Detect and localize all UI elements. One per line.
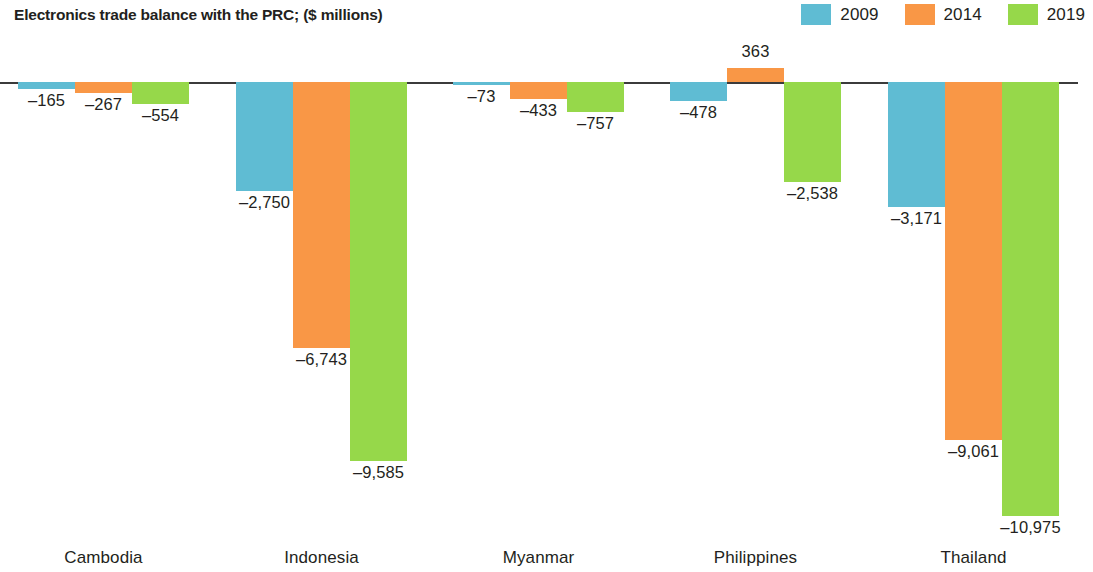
bar-indonesia-2009 bbox=[236, 82, 293, 191]
value-label-myanmar-2019: –757 bbox=[577, 114, 614, 133]
value-label-indonesia-2019: –9,585 bbox=[353, 463, 404, 482]
value-label-myanmar-2009: –73 bbox=[468, 87, 496, 106]
bar-cambodia-2019 bbox=[132, 82, 189, 104]
category-label-cambodia: Cambodia bbox=[64, 548, 142, 568]
bar-philippines-2014 bbox=[727, 68, 784, 82]
value-label-cambodia-2014: –267 bbox=[85, 95, 122, 114]
chart-container: Electronics trade balance with the PRC; … bbox=[0, 0, 1093, 572]
bar-thailand-2019 bbox=[1002, 82, 1059, 516]
bar-philippines-2019 bbox=[784, 82, 841, 182]
category-label-indonesia: Indonesia bbox=[284, 548, 359, 568]
bar-myanmar-2009 bbox=[453, 82, 510, 85]
bar-myanmar-2014 bbox=[510, 82, 567, 99]
bar-thailand-2014 bbox=[945, 82, 1002, 440]
bar-thailand-2009 bbox=[888, 82, 945, 207]
value-label-cambodia-2009: –165 bbox=[28, 91, 65, 110]
category-label-myanmar: Myanmar bbox=[503, 548, 575, 568]
value-label-philippines-2009: –478 bbox=[680, 103, 717, 122]
category-label-philippines: Philippines bbox=[714, 548, 797, 568]
value-label-cambodia-2019: –554 bbox=[142, 106, 179, 125]
value-label-philippines-2019: –2,538 bbox=[787, 184, 838, 203]
value-label-myanmar-2014: –433 bbox=[520, 101, 557, 120]
value-label-indonesia-2009: –2,750 bbox=[239, 193, 290, 212]
bar-myanmar-2019 bbox=[567, 82, 624, 112]
bar-cambodia-2014 bbox=[75, 82, 132, 93]
plot-area: –165–267–554Cambodia–2,750–6,743–9,585In… bbox=[0, 0, 1093, 572]
value-label-philippines-2014: 363 bbox=[742, 42, 770, 61]
bar-philippines-2009 bbox=[670, 82, 727, 101]
value-label-thailand-2014: –9,061 bbox=[948, 442, 999, 461]
category-label-thailand: Thailand bbox=[940, 548, 1006, 568]
value-label-thailand-2019: –10,975 bbox=[1000, 518, 1060, 537]
bar-indonesia-2014 bbox=[293, 82, 350, 348]
bar-cambodia-2009 bbox=[18, 82, 75, 89]
value-label-thailand-2009: –3,171 bbox=[891, 209, 942, 228]
bar-indonesia-2019 bbox=[350, 82, 407, 461]
value-label-indonesia-2014: –6,743 bbox=[296, 350, 347, 369]
